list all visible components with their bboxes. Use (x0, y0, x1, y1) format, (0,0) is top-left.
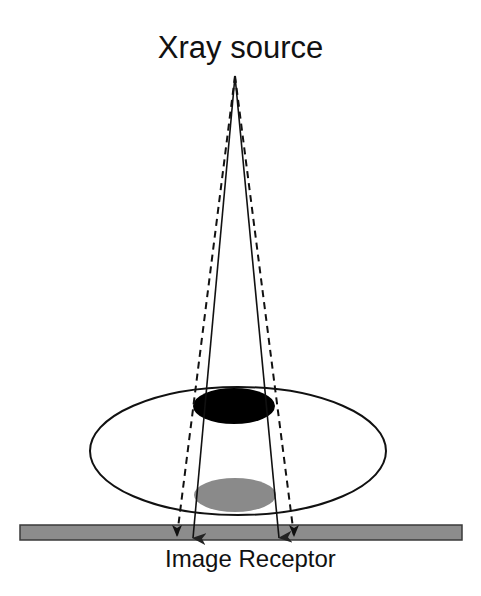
projected-shadow-ellipse (194, 478, 276, 512)
ray-dashed-left (177, 76, 235, 536)
xray-beams (177, 76, 294, 538)
xray-source-label: Xray source (0, 30, 481, 66)
ray-dashed-right (235, 76, 294, 536)
ray-solid-right (235, 76, 279, 538)
image-receptor-label: Image Receptor (0, 545, 481, 573)
xray-projection-diagram (0, 0, 481, 596)
image-receptor-bar (20, 525, 462, 540)
ray-solid-left (193, 76, 235, 538)
